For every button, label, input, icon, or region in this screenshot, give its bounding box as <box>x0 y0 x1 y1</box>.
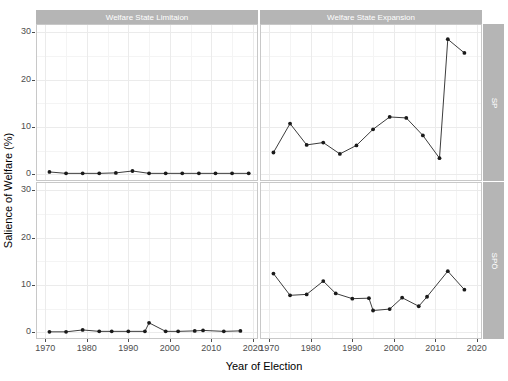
series-point <box>114 171 118 175</box>
x-tick-label: 1980 <box>73 343 101 355</box>
y-tick-label: 20 <box>12 74 31 86</box>
facet-strip-spoe-label: SPÖ <box>489 252 498 269</box>
series-point <box>446 269 450 273</box>
x-tick-mark <box>87 339 88 342</box>
x-tick-mark <box>311 339 312 342</box>
series-layer <box>261 183 481 338</box>
x-tick-label: 2000 <box>156 343 184 355</box>
y-tick-label: 0 <box>12 326 31 338</box>
series-point <box>126 329 130 333</box>
series-point <box>197 171 201 175</box>
y-tick-mark <box>32 332 35 333</box>
series-point <box>239 329 243 333</box>
series-point <box>321 279 325 283</box>
series-point <box>247 171 251 175</box>
series-point <box>230 171 234 175</box>
series-point <box>288 293 292 297</box>
series-point <box>64 330 68 334</box>
series-point <box>48 170 52 174</box>
panel-sp-limitation <box>36 24 258 181</box>
series-point <box>334 292 338 296</box>
x-tick-label: 1970 <box>255 343 283 355</box>
series-point <box>81 171 85 175</box>
x-tick-label: 1990 <box>114 343 142 355</box>
series-point <box>222 329 226 333</box>
x-tick-label: 2000 <box>380 343 408 355</box>
series-point <box>371 127 375 131</box>
y-tick-label: 20 <box>12 232 31 244</box>
series-point <box>338 152 342 156</box>
x-tick-mark <box>128 339 129 342</box>
y-tick-label: 30 <box>12 26 31 38</box>
y-tick-mark <box>32 238 35 239</box>
x-tick-mark <box>477 339 478 342</box>
x-tick-label: 2020 <box>463 343 491 355</box>
series-point <box>48 330 52 334</box>
y-tick-mark <box>32 127 35 128</box>
y-tick-label: 10 <box>12 121 31 133</box>
series-point <box>110 329 114 333</box>
facet-strip-welfare-state-expansion: Welfare State Expansion <box>260 10 482 24</box>
series-layer <box>37 183 257 338</box>
series-point <box>463 288 467 292</box>
series-point <box>97 171 101 175</box>
series-point <box>463 51 467 55</box>
y-tick-mark <box>32 32 35 33</box>
series-point <box>371 309 375 313</box>
series-point <box>438 156 442 160</box>
series-line <box>273 271 464 310</box>
x-tick-mark <box>170 339 171 342</box>
series-point <box>131 169 135 173</box>
series-point <box>193 329 197 333</box>
series-point <box>164 171 168 175</box>
y-tick-mark <box>32 80 35 81</box>
x-tick-label: 2010 <box>197 343 225 355</box>
series-point <box>388 307 392 311</box>
series-point <box>305 292 309 296</box>
series-point <box>446 37 450 41</box>
series-point <box>417 304 421 308</box>
series-point <box>400 296 404 300</box>
series-point <box>321 141 325 145</box>
series-point <box>176 329 180 333</box>
series-point <box>81 328 85 332</box>
x-tick-mark <box>352 339 353 342</box>
x-tick-mark <box>435 339 436 342</box>
series-point <box>350 297 354 301</box>
facet-strip-spoe: SPÖ <box>483 182 504 339</box>
series-point <box>272 151 276 155</box>
facet-strip-sp: SP <box>483 24 504 181</box>
y-tick-label: 30 <box>12 184 31 196</box>
y-tick-mark <box>32 285 35 286</box>
x-tick-label: 1980 <box>297 343 325 355</box>
x-tick-label: 2010 <box>421 343 449 355</box>
series-point <box>64 171 68 175</box>
series-point <box>164 329 168 333</box>
series-point <box>143 329 147 333</box>
x-tick-mark <box>253 339 254 342</box>
series-point <box>180 171 184 175</box>
series-point <box>355 144 359 148</box>
series-point <box>97 329 101 333</box>
series-point <box>388 115 392 119</box>
series-point <box>201 329 205 333</box>
series-layer <box>37 25 257 180</box>
series-point <box>404 116 408 120</box>
series-point <box>305 143 309 147</box>
y-tick-label: 10 <box>12 279 31 291</box>
x-tick-mark <box>269 339 270 342</box>
x-tick-mark <box>211 339 212 342</box>
series-point <box>288 122 292 126</box>
facet-chart-figure: Salience of Welfare (%) Year of Election… <box>0 0 508 381</box>
y-tick-mark <box>32 190 35 191</box>
series-point <box>214 171 218 175</box>
x-tick-mark <box>394 339 395 342</box>
series-point <box>421 134 425 138</box>
panel-spoe-limitation <box>36 182 258 339</box>
x-tick-label: 1990 <box>338 343 366 355</box>
x-axis-title: Year of Election <box>20 360 508 372</box>
y-tick-mark <box>32 174 35 175</box>
facet-strip-welfare-state-limitation: Welfare State Limitaion <box>36 10 258 24</box>
y-tick-label: 0 <box>12 168 31 180</box>
series-point <box>425 295 429 299</box>
